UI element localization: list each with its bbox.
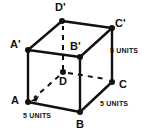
measurement-label-bottom-right-edge: 5 UNITS	[100, 100, 128, 107]
vertex-dot-C	[109, 79, 115, 85]
vertex-dot-Ap	[25, 47, 31, 53]
measurement-label-right-edge: 5 UNITS	[110, 47, 138, 54]
edge-Dp-Ap	[28, 21, 62, 50]
cube-figure: D' C' A' B' D C A B 5 UNITS 5 UNITS 5 UN…	[0, 0, 154, 132]
edge-D-C	[68, 73, 106, 79]
vertex-label-c-prime: C'	[115, 18, 126, 29]
vertex-label-b-prime: B'	[70, 41, 81, 52]
vertex-dot-Bp	[77, 54, 83, 60]
vertex-label-b: B	[76, 119, 84, 130]
vertex-label-c: C	[119, 79, 127, 90]
edge-B-C	[80, 82, 112, 112]
vertex-dot-B	[77, 109, 83, 115]
solid-edges	[28, 21, 112, 112]
edge-D-A	[34, 76, 59, 98]
vertex-label-a-prime: A'	[10, 39, 21, 50]
edge-Bp-Cp	[80, 28, 112, 57]
edge-A-B	[28, 102, 80, 112]
measurement-label-bottom-left-edge: 5 UNITS	[23, 112, 51, 119]
vertex-label-d-prime: D'	[55, 2, 66, 13]
vertex-label-a: A	[11, 95, 19, 106]
edge-Cp-Dp	[62, 21, 112, 28]
vertex-dot-A	[25, 99, 31, 105]
vertex-label-d: D	[59, 76, 67, 87]
vertex-dot-Dp	[59, 18, 65, 24]
